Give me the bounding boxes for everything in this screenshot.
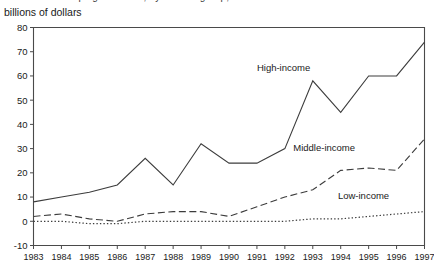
x-tick-label: 1996: [387, 252, 407, 262]
plot-frame: [34, 28, 425, 246]
y-tick-label: 50: [17, 95, 28, 106]
x-tick-label: 1994: [331, 252, 351, 262]
series-label-high-income: High-income: [257, 62, 310, 73]
chart-figure: of developing countries, by income group…: [0, 0, 434, 269]
x-tick-label: 1985: [79, 252, 99, 262]
series-line-high-income: [34, 42, 425, 202]
x-tick-label: 1988: [163, 252, 183, 262]
y-tick-label: 70: [17, 46, 28, 57]
x-tick-label: 1986: [107, 252, 127, 262]
series-line-low-income: [34, 212, 425, 224]
series-label-middle-income: Middle-income: [293, 142, 355, 153]
y-tick-label: 20: [17, 167, 28, 178]
x-tick-label: 1989: [191, 252, 211, 262]
x-tick-label: 1983: [23, 252, 43, 262]
x-tick-label: 1995: [359, 252, 379, 262]
y-tick-label: 60: [17, 70, 28, 81]
axis-frame-group: [34, 28, 425, 246]
y-tick-label: 40: [17, 119, 28, 130]
y-tick-label: -10: [14, 240, 28, 251]
series-annotations-group: High-incomeMiddle-incomeLow-income: [257, 62, 389, 201]
axis-ticks-group: -100102030405060708019831984198519861987…: [14, 22, 434, 262]
line-chart-plot: -100102030405060708019831984198519861987…: [0, 0, 434, 269]
x-tick-label: 1984: [51, 252, 71, 262]
x-tick-label: 1997: [414, 252, 434, 262]
x-tick-label: 1987: [135, 252, 155, 262]
y-tick-label: 80: [17, 22, 28, 33]
series-label-low-income: Low-income: [338, 190, 389, 201]
x-tick-label: 1993: [303, 252, 323, 262]
series-line-middle-income: [34, 139, 425, 221]
x-tick-label: 1992: [275, 252, 295, 262]
y-tick-label: 0: [22, 216, 27, 227]
y-tick-label: 30: [17, 143, 28, 154]
x-tick-label: 1991: [247, 252, 267, 262]
y-tick-label: 10: [17, 191, 28, 202]
x-tick-label: 1990: [219, 252, 239, 262]
